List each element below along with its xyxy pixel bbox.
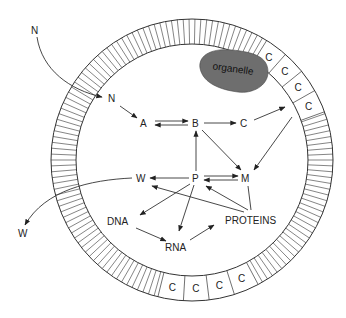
cell-membrane: CCCCCCCC — [51, 19, 333, 301]
node-b: B — [192, 118, 199, 129]
membrane-c-cell-label: C — [305, 101, 312, 112]
node-p: P — [192, 173, 199, 184]
membrane-c-cell-label: C — [192, 283, 199, 294]
membrane-c-cell-label: C — [295, 82, 302, 93]
node-w-outside: W — [18, 228, 28, 239]
node-a: A — [140, 118, 147, 129]
node-rna: RNA — [165, 242, 186, 253]
node-c: C — [240, 118, 247, 129]
node-dna: DNA — [107, 216, 128, 227]
membrane-c-cell-label: C — [216, 280, 223, 291]
membrane-c-cell-label: C — [265, 52, 272, 63]
node-m: M — [241, 173, 249, 184]
node-n-outside: N — [31, 25, 38, 36]
node-proteins: PROTEINS — [225, 215, 276, 226]
node-w-inside: W — [136, 173, 146, 184]
node-n-inside: N — [108, 93, 115, 104]
membrane-c-cell-label: C — [281, 66, 288, 77]
membrane-c-cell-label: C — [169, 282, 176, 293]
membrane-ticks — [51, 19, 333, 296]
cell-metabolism-diagram: CCCCCCCC organelle — [0, 0, 346, 318]
organelle: organelle — [200, 50, 268, 93]
membrane-c-cell-label: C — [238, 273, 245, 284]
